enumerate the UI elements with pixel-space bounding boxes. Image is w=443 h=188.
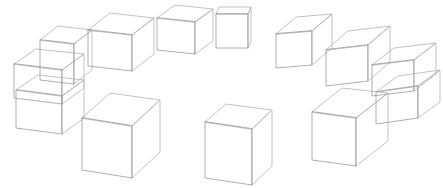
cubes-illustration-canvas: Left flat cubeLeft upper cubeLeft middle…: [0, 0, 443, 188]
canvas-background: [0, 0, 443, 188]
cubes-svg-root: Left flat cubeLeft upper cubeLeft middle…: [0, 0, 443, 188]
